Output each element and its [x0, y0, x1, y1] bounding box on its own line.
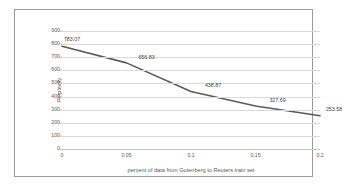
- y-axis-tick-mark: [59, 31, 62, 32]
- x-axis-tick-label: 0: [61, 153, 64, 158]
- y-axis-tick-mark: [59, 109, 62, 110]
- gridline: [62, 70, 320, 71]
- y-axis-tick-labels: 9008007006005004003002001000: [34, 31, 60, 149]
- x-axis-tick-label: 0.1: [187, 153, 194, 158]
- y-axis-tick-label: 600: [36, 68, 60, 73]
- y-axis-tick-label: 400: [36, 94, 60, 99]
- series-line-perplexity: [62, 31, 320, 149]
- y-axis-tick-label: 300: [36, 107, 60, 112]
- y-axis-tick-mark: [59, 135, 62, 136]
- data-point-label: 327.69: [269, 98, 285, 103]
- gridline: [62, 44, 320, 45]
- y-axis-tick-mark: [59, 83, 62, 84]
- chart-frame: Perplexity 9008007006005004003002001000 …: [14, 9, 313, 177]
- plot-area: [62, 31, 320, 149]
- gridline: [62, 110, 320, 111]
- x-axis-tick-label: 0.15: [250, 153, 260, 158]
- y-axis-tick-label: 500: [36, 81, 60, 86]
- gridline: [62, 123, 320, 124]
- gridline: [62, 136, 320, 137]
- y-axis-tick-label: 200: [36, 120, 60, 125]
- y-axis-tick-label: 700: [36, 55, 60, 60]
- y-axis-tick-mark: [59, 44, 62, 45]
- x-axis-tick-label: 0.05: [121, 153, 131, 158]
- data-point-label: 783.07: [64, 37, 80, 42]
- x-axis-tick-label: 0.2: [316, 153, 323, 158]
- x-axis-title: percent of data from Gutenberg to Reuter…: [62, 167, 320, 173]
- y-axis-tick-mark: [59, 149, 62, 150]
- y-axis-tick-label: 900: [36, 28, 60, 33]
- gridline: [62, 31, 320, 32]
- y-axis-tick-mark: [59, 57, 62, 58]
- gridline: [62, 57, 320, 58]
- y-axis-tick-label: 100: [36, 133, 60, 138]
- data-point-label: 656.83: [138, 55, 154, 60]
- data-point-label: 438.87: [205, 83, 221, 88]
- y-axis-tick-label: 800: [36, 42, 60, 47]
- data-point-label: 253.58: [326, 107, 342, 112]
- y-axis-tick-mark: [59, 70, 62, 71]
- gridline: [62, 83, 320, 84]
- gridline: [62, 149, 320, 150]
- x-axis-tick-labels: 00.050.10.150.2: [62, 153, 320, 163]
- y-axis-tick-mark: [59, 96, 62, 97]
- y-axis-tick-label: 0: [36, 146, 60, 151]
- y-axis-tick-mark: [59, 122, 62, 123]
